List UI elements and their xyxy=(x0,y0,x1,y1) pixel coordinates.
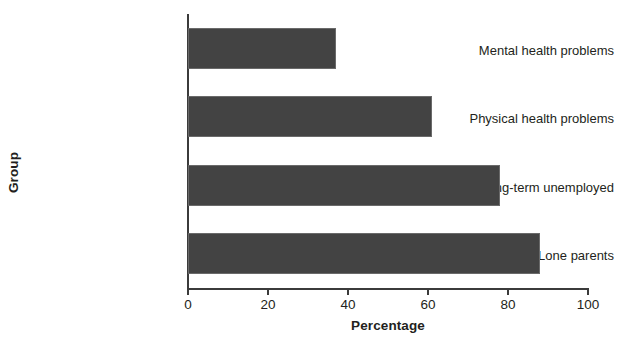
y-axis-title-label: Group xyxy=(6,152,21,193)
plot-area: 020406080100 xyxy=(188,14,588,288)
x-tick-4 xyxy=(507,288,509,295)
x-tick-label-0: 0 xyxy=(158,297,218,312)
x-tick-label-2: 40 xyxy=(318,297,378,312)
x-tick-1 xyxy=(267,288,269,295)
x-tick-label-4: 80 xyxy=(478,297,538,312)
x-tick-label-5: 100 xyxy=(558,297,618,312)
x-tick-2 xyxy=(347,288,349,295)
bar-mental-health-problems xyxy=(188,28,336,69)
x-tick-label-1: 20 xyxy=(238,297,298,312)
bar-physical-health-problems xyxy=(188,96,432,137)
y-axis-title: Group xyxy=(0,0,26,344)
x-tick-5 xyxy=(587,288,589,295)
x-tick-3 xyxy=(427,288,429,295)
x-axis-line xyxy=(187,288,589,290)
x-tick-label-3: 60 xyxy=(398,297,458,312)
x-axis-title: Percentage xyxy=(188,318,588,333)
bar-chart: Group Mental health problems Physical he… xyxy=(0,0,620,344)
bar-long-term-unemployed xyxy=(188,165,500,206)
x-tick-0 xyxy=(187,288,189,295)
bar-lone-parents xyxy=(188,233,540,274)
